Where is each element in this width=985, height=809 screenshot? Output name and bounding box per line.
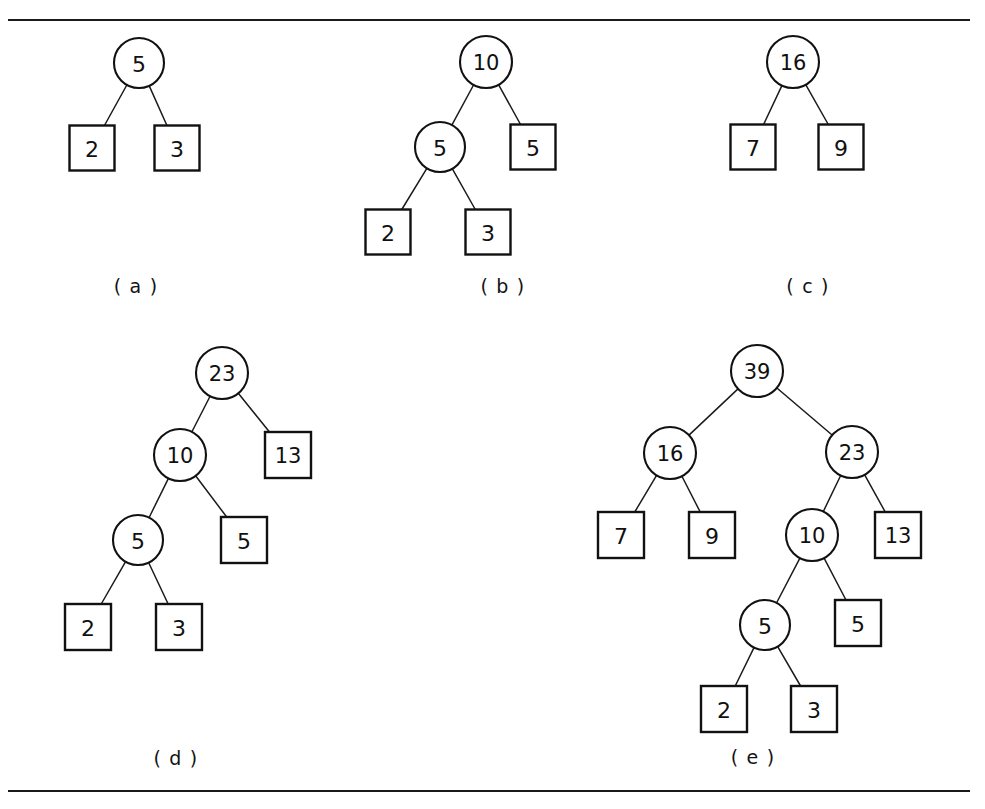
node-value-label: 9 (834, 136, 848, 161)
tree-edge-c-circle-16-to-square-7 (764, 85, 783, 125)
tree-edge-e-circle-16-to-square-9 (681, 475, 700, 512)
tree-node-e-square-2: 2 (701, 686, 747, 732)
node-value-label: 10 (799, 524, 826, 548)
tree-node-e-square-3: 3 (791, 686, 837, 732)
tree-edge-e-circle-16-to-square-7 (635, 474, 657, 512)
tree-diagram-canvas: 523105523167923101355233916237910135523 (0, 0, 985, 809)
node-value-label: 10 (473, 51, 500, 75)
tree-edge-e-circle-23-to-square-13 (864, 474, 885, 512)
node-value-label: 5 (132, 52, 146, 77)
tree-edge-d-circle-23-to-circle-10 (191, 395, 210, 432)
tree-node-c-circle-16: 16 (767, 36, 819, 88)
edge-group (101, 392, 269, 604)
tree-panel-d: 2310135523 (65, 347, 311, 650)
panel-label-a: ( a ) (114, 275, 159, 297)
tree-node-d-square-2: 2 (65, 604, 111, 650)
tree-edge-e-circle-10-to-circle-5 (776, 557, 800, 604)
node-value-label: 3 (481, 221, 495, 246)
tree-node-e-circle-16: 16 (644, 427, 696, 479)
tree-edge-d-circle-5-to-square-2 (101, 561, 126, 604)
tree-edge-e-circle-39-to-circle-23 (776, 387, 833, 436)
tree-node-e-circle-39: 39 (731, 345, 783, 397)
panel-label-b: ( b ) (481, 275, 526, 297)
node-value-label: 16 (657, 442, 684, 466)
node-value-label: 5 (433, 136, 447, 161)
tree-node-e-circle-10: 10 (786, 509, 838, 561)
tree-node-b-circle-5: 5 (415, 122, 465, 172)
node-value-label: 7 (746, 136, 760, 161)
tree-node-e-square-5: 5 (835, 600, 881, 646)
tree-node-e-square-9: 9 (689, 512, 735, 558)
node-value-label: 23 (839, 441, 866, 465)
tree-edge-d-circle-5-to-square-3 (148, 562, 168, 604)
tree-edge-e-circle-5-to-square-2 (735, 647, 754, 686)
tree-node-d-square-13: 13 (265, 432, 311, 478)
node-value-label: 39 (744, 360, 771, 384)
tree-node-e-circle-5: 5 (740, 600, 790, 650)
tree-panel-b: 105523 (366, 36, 556, 255)
edge-group (764, 84, 829, 125)
tree-edge-a-circle-5-to-square-3 (149, 85, 167, 126)
tree-node-b-square-5: 5 (511, 125, 556, 170)
tree-panel-e: 3916237910135523 (598, 345, 921, 732)
panel-label-e: ( e ) (731, 746, 776, 768)
tree-edge-e-circle-39-to-circle-16 (688, 388, 739, 436)
tree-edge-d-circle-10-to-circle-5 (149, 477, 169, 518)
tree-node-d-circle-10: 10 (154, 429, 206, 481)
tree-node-b-square-2: 2 (366, 210, 411, 255)
tree-edge-e-circle-23-to-circle-10 (823, 475, 841, 513)
node-value-label: 16 (780, 51, 807, 75)
node-value-label: 2 (717, 698, 731, 723)
node-value-label: 5 (851, 612, 865, 637)
node-value-label: 3 (172, 616, 186, 641)
tree-node-e-square-7: 7 (598, 512, 644, 558)
node-value-label: 5 (758, 614, 772, 639)
tree-edge-b-circle-5-to-square-2 (402, 167, 428, 209)
tree-node-c-square-7: 7 (731, 125, 776, 170)
tree-edge-d-circle-23-to-square-13 (238, 392, 270, 432)
tree-edge-b-circle-10-to-circle-5 (451, 84, 474, 126)
tree-node-a-square-3: 3 (155, 126, 200, 171)
node-value-label: 2 (81, 616, 95, 641)
tree-panel-c: 1679 (731, 36, 864, 170)
panel-label-d: ( d ) (154, 747, 199, 769)
node-value-label: 3 (170, 137, 184, 162)
tree-node-b-square-3: 3 (466, 210, 511, 255)
node-value-label: 2 (85, 137, 99, 162)
tree-node-d-square-3: 3 (156, 604, 202, 650)
node-value-label: 10 (167, 444, 194, 468)
node-value-label: 13 (885, 524, 912, 548)
node-value-label: 7 (614, 524, 628, 549)
tree-node-b-circle-10: 10 (460, 36, 512, 88)
node-value-label: 3 (807, 698, 821, 723)
tree-edge-b-circle-10-to-square-5 (498, 84, 520, 125)
edge-group (104, 84, 167, 125)
node-value-label: 2 (381, 221, 395, 246)
tree-node-a-square-2: 2 (70, 126, 115, 171)
tree-node-d-circle-5: 5 (113, 515, 163, 565)
tree-edge-a-circle-5-to-square-2 (104, 84, 127, 125)
tree-node-e-square-13: 13 (875, 512, 921, 558)
tree-edge-e-circle-10-to-square-5 (824, 557, 846, 600)
figure-root: 523105523167923101355233916237910135523 … (0, 0, 985, 809)
node-value-label: 13 (275, 444, 302, 468)
horizontal-rule-bottom (8, 790, 970, 792)
tree-node-d-square-5: 5 (221, 517, 267, 563)
panel-label-c: ( c ) (786, 275, 829, 297)
node-value-label: 9 (705, 524, 719, 549)
tree-node-a-circle-5: 5 (114, 38, 164, 88)
node-value-label: 23 (209, 362, 236, 386)
node-value-label: 5 (237, 529, 251, 554)
tree-node-c-square-9: 9 (819, 125, 864, 170)
tree-node-d-circle-23: 23 (196, 347, 248, 399)
tree-panel-a: 523 (70, 38, 200, 171)
tree-node-e-circle-23: 23 (826, 426, 878, 478)
tree-edge-d-circle-10-to-square-5 (195, 475, 227, 517)
tree-edge-c-circle-16-to-square-9 (805, 84, 828, 125)
tree-edge-e-circle-5-to-square-3 (777, 646, 800, 686)
tree-edge-b-circle-5-to-square-3 (452, 168, 475, 210)
node-value-label: 5 (131, 529, 145, 554)
node-value-label: 5 (526, 136, 540, 161)
